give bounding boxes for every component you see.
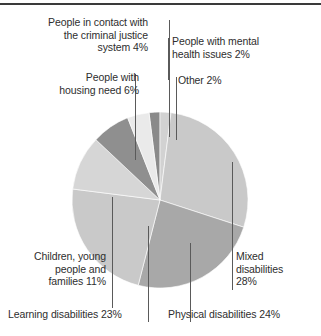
label-mixed-disabilities: Mixed disabilities 28% — [236, 250, 320, 288]
label-other: Other 2% — [178, 74, 298, 87]
label-children-young-people-and-families: Children, young people and families 11% — [1, 250, 106, 288]
pie-chart-figure: People in contact with the criminal just… — [0, 0, 321, 336]
label-criminal-justice-system: People in contact with the criminal just… — [0, 16, 148, 54]
label-people-with-mental-health-issues: People with mental health issues 2% — [172, 35, 312, 60]
label-physical-disabilities: Physical disabilities 24% — [168, 308, 321, 321]
label-people-with-housing-need: People with housing need 6% — [0, 71, 139, 96]
label-learning-disabilities: Learning disabilities 23% — [8, 308, 188, 321]
